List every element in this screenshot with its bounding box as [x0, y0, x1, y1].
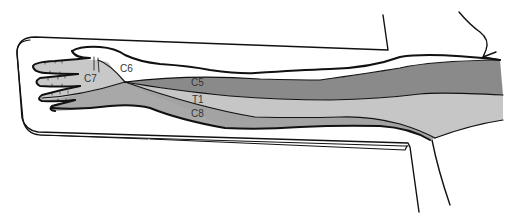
label-t1: T1	[192, 94, 204, 105]
label-c8: C8	[191, 108, 204, 119]
dermatome-diagram: C6 C7 C5 T1 C8	[0, 0, 515, 222]
label-c7: C7	[84, 73, 97, 84]
label-c6: C6	[120, 63, 133, 74]
label-c5: C5	[191, 77, 204, 88]
